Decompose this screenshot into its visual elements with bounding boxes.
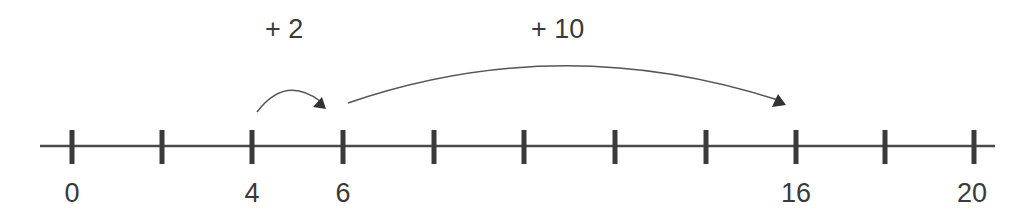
number-line-diagram (0, 0, 1031, 219)
tick-label-16: 16 (781, 178, 811, 209)
arrowhead-plus-10 (772, 94, 786, 107)
tick-label-0: 0 (64, 178, 79, 209)
jump-label-plus-2: + 2 (265, 14, 303, 45)
jump-label-plus-10: + 10 (531, 14, 584, 45)
tick-label-4: 4 (244, 178, 259, 209)
jump-arrow-plus-2 (257, 90, 320, 112)
tick-label-20: 20 (957, 178, 987, 209)
jump-arrow-plus-10 (348, 66, 778, 103)
arrowhead-plus-2 (313, 97, 326, 109)
tick-label-6: 6 (335, 178, 350, 209)
